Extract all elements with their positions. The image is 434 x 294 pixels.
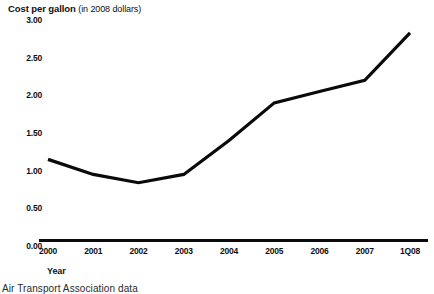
source-note: Air Transport Association data xyxy=(2,283,138,294)
x-axis-baseline xyxy=(39,239,428,242)
chart-title: Cost per gallon (in 2008 dollars) xyxy=(8,3,141,15)
y-tick-label: 3.00 xyxy=(0,16,42,25)
x-tick-label: 2002 xyxy=(129,246,147,256)
x-tick-label: 1Q08 xyxy=(400,246,420,256)
x-tick-label: 2000 xyxy=(39,246,57,256)
x-axis-title: Year xyxy=(47,266,66,276)
plot-area xyxy=(46,20,426,246)
y-tick-label: 2.50 xyxy=(0,53,42,62)
y-tick-label: 1.50 xyxy=(0,129,42,138)
data-series-line xyxy=(48,33,410,183)
x-tick-label: 2007 xyxy=(356,246,374,256)
y-tick-label: 1.00 xyxy=(0,166,42,175)
y-axis: 3.002.502.001.501.000.500.00 xyxy=(0,20,42,246)
x-axis: 200020012002200320042005200620071Q08 xyxy=(46,246,426,260)
x-tick-label: 2001 xyxy=(84,246,102,256)
x-tick-label: 2003 xyxy=(175,246,193,256)
chart-title-units: (in 2008 dollars) xyxy=(78,4,141,14)
x-tick-label: 2004 xyxy=(220,246,238,256)
y-tick-label: 0.50 xyxy=(0,204,42,213)
data-line-svg xyxy=(46,20,426,246)
chart-title-main: Cost per gallon xyxy=(8,3,76,14)
x-tick-label: 2005 xyxy=(265,246,283,256)
x-tick-label: 2006 xyxy=(310,246,328,256)
y-tick-label: 2.00 xyxy=(0,91,42,100)
y-tick-label: 0.00 xyxy=(0,242,42,251)
